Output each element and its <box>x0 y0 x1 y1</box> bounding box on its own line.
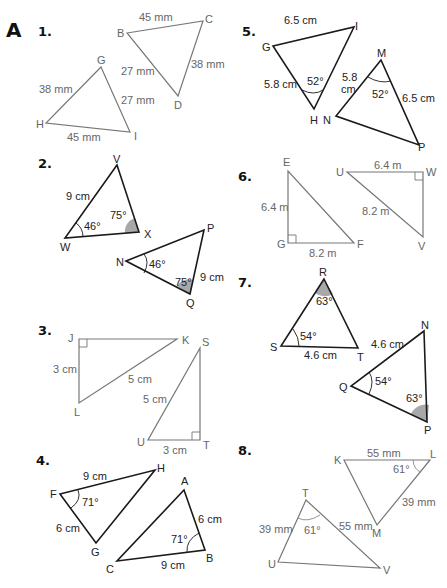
vertex-label: H <box>157 462 165 474</box>
vertex-label: N <box>323 114 331 126</box>
problem-4: 4. F G H 9 cm 6 cm 71° A B C 6 cm 9 cm 7… <box>36 453 222 575</box>
side-label: 38 mm <box>39 83 73 95</box>
angle-label: 52° <box>307 75 324 87</box>
angle-label: 61° <box>393 463 410 475</box>
right-angle-marker <box>415 172 423 180</box>
problem-number: 6. <box>238 169 252 184</box>
side-label: 39 mm <box>402 496 436 508</box>
side-label: 8.2 m <box>362 205 390 217</box>
vertex-label: E <box>283 156 290 168</box>
section-label: A <box>6 18 22 42</box>
vertex-label: L <box>430 448 436 460</box>
vertex-label: U <box>268 558 276 570</box>
problem-number: 7. <box>238 275 252 290</box>
side-label: 45 mm <box>67 131 101 143</box>
angle-label: 63° <box>406 392 423 404</box>
problem-2: 2. V W X 9 cm 46° 75° N P Q 9 cm 46° 75° <box>38 153 224 309</box>
side-label: 9 cm <box>66 190 90 202</box>
problem-5: 5. G H I 6.5 cm 5.8 cm 52° M N P 5.8 cm … <box>242 14 435 153</box>
vertex-label: I <box>134 130 137 142</box>
vertex-label: T <box>302 487 309 499</box>
side-label: 4.6 cm <box>304 349 337 361</box>
side-label: 5.8 cm <box>264 78 297 90</box>
side-label: 6.4 m <box>374 159 402 171</box>
angle-label: 71° <box>82 496 99 508</box>
angle-label: 75° <box>110 209 127 221</box>
vertex-label: T <box>203 439 210 451</box>
problem-number: 8. <box>238 443 252 458</box>
vertex-label: P <box>418 141 425 153</box>
problem-8: 8. K L M 55 mm 39 mm 61° T U V 39 mm 55 … <box>238 443 436 576</box>
vertex-label: G <box>91 546 100 558</box>
side-label: 38 mm <box>191 58 225 70</box>
vertex-label: U <box>336 166 344 178</box>
vertex-label: M <box>372 527 381 539</box>
side-label: 39 mm <box>259 523 293 535</box>
vertex-label: B <box>206 552 213 564</box>
side-label: cm <box>341 83 356 95</box>
problem-1: 1. B C D 45 mm 38 mm 27 mm G H I 38 mm 2… <box>36 11 225 143</box>
side-label: 6 cm <box>198 513 222 525</box>
vertex-label: C <box>106 563 114 575</box>
side-label: 27 mm <box>121 65 155 77</box>
vertex-label: H <box>36 118 44 130</box>
angle-arc <box>368 77 391 82</box>
vertex-label: V <box>418 240 426 252</box>
vertex-label: G <box>262 41 271 53</box>
problem-number: 1. <box>38 24 52 39</box>
angle-arc <box>293 329 299 346</box>
vertex-label: K <box>334 454 342 466</box>
vertex-label: F <box>357 238 364 250</box>
angle-arc <box>302 90 323 93</box>
vertex-label: H <box>310 114 318 126</box>
problem-6: 6. E F G 6.4 m 8.2 m U V W 6.4 m 8.2 m <box>238 156 437 259</box>
vertex-label: J <box>68 332 74 344</box>
side-label: 6.4 m <box>261 201 289 213</box>
triangle-tuv <box>278 500 380 568</box>
side-label: 5 cm <box>143 393 167 405</box>
worksheet-figures: A 1. B C D 45 mm 38 mm 27 mm G H I 38 mm… <box>0 0 447 588</box>
side-label: 55 mm <box>339 520 373 532</box>
problem-3: 3. J K L 3 cm 5 cm S T U 5 cm 3 cm <box>38 323 210 456</box>
side-label: 27 mm <box>121 94 155 106</box>
side-label: 6 cm <box>56 522 80 534</box>
problem-number: 2. <box>38 156 52 171</box>
vertex-label: G <box>277 238 286 250</box>
side-label: 8.2 m <box>309 247 337 259</box>
angle-label: 52° <box>372 88 389 100</box>
side-label: 9 cm <box>161 559 185 571</box>
vertex-label: V <box>383 564 391 576</box>
problem-number: 4. <box>36 453 50 468</box>
vertex-label: P <box>207 222 214 234</box>
angle-label: 75° <box>175 276 192 288</box>
side-label: 55 mm <box>367 447 401 459</box>
side-label: 45 mm <box>139 11 173 23</box>
triangle-ghi <box>273 27 354 109</box>
angle-label: 63° <box>316 295 333 307</box>
right-angle-marker <box>192 432 200 440</box>
angle-label: 61° <box>304 524 321 536</box>
side-label: 5.8 <box>342 71 357 83</box>
vertex-label: W <box>60 241 71 253</box>
angle-arc <box>298 515 320 520</box>
vertex-label: C <box>205 13 213 25</box>
vertex-label: G <box>97 54 106 66</box>
side-label: 6.5 cm <box>402 92 435 104</box>
vertex-label: F <box>50 488 57 500</box>
problem-7: 7. R S T 4.6 cm 63° 54° N P Q 4.6 cm 54°… <box>238 266 431 436</box>
angle-arc <box>71 490 79 508</box>
angle-arc <box>413 460 421 472</box>
side-label: 9 cm <box>200 271 224 283</box>
problem-number: 5. <box>242 24 256 39</box>
vertex-label: R <box>319 266 327 278</box>
vertex-label: X <box>144 228 152 240</box>
angle-label: 54° <box>375 375 392 387</box>
triangle-ghi <box>46 67 130 132</box>
angle-label: 54° <box>300 330 317 342</box>
triangle-efg <box>288 171 354 243</box>
vertex-label: N <box>116 256 124 268</box>
side-label: 5 cm <box>128 373 152 385</box>
angle-arc <box>369 372 372 394</box>
side-label: 4.6 cm <box>371 338 404 350</box>
vertex-label: S <box>202 336 209 348</box>
